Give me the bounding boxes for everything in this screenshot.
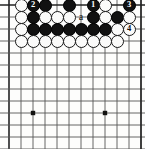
- stone-white: [87, 35, 100, 48]
- stone-white: [51, 11, 64, 24]
- stone-black: [75, 23, 88, 36]
- stone-white-move-4: 4: [123, 23, 136, 36]
- stone-white: [111, 23, 124, 36]
- stone-move-number: 1: [91, 0, 95, 9]
- stone-move-number: 4: [127, 24, 131, 33]
- stone-white: [15, 23, 28, 36]
- stone-white: [111, 35, 124, 48]
- stone-black-move-2: 2: [27, 0, 40, 12]
- stone-white: [15, 11, 28, 24]
- go-board-diagram: 2134a: [0, 0, 145, 149]
- stone-black: [27, 11, 40, 24]
- stone-white: [39, 35, 52, 48]
- stone-white: [27, 35, 40, 48]
- stone-white: [99, 11, 112, 24]
- stone-move-number: 2: [31, 0, 35, 9]
- stone-black: [39, 23, 52, 36]
- stone-move-number: 3: [127, 0, 131, 9]
- stone-white: [75, 35, 88, 48]
- stone-black: [27, 23, 40, 36]
- stone-black: [51, 23, 64, 36]
- stone-black: [39, 0, 52, 12]
- star-point: [103, 111, 107, 115]
- stone-white: [15, 35, 28, 48]
- stone-black: [99, 23, 112, 36]
- stone-white: [123, 11, 136, 24]
- stone-black: [87, 23, 100, 36]
- stone-white: [15, 0, 28, 12]
- stone-black: [63, 23, 76, 36]
- star-point: [31, 111, 35, 115]
- stone-white: [63, 35, 76, 48]
- stone-black-move-3: 3: [123, 0, 136, 12]
- stone-white: [51, 35, 64, 48]
- stone-white: [99, 35, 112, 48]
- point-label-a: a: [75, 11, 88, 24]
- stone-black: [87, 11, 100, 24]
- stone-white: [39, 11, 52, 24]
- stone-black-move-1: 1: [87, 0, 100, 12]
- stone-black: [111, 11, 124, 24]
- stone-white: [99, 0, 112, 12]
